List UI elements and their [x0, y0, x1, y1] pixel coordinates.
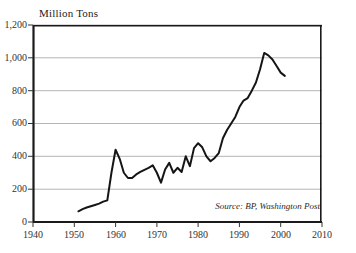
x-axis-label-1980: 1980 [178, 229, 218, 240]
x-axis-label-1960: 1960 [96, 229, 136, 240]
y-axis-label-800: 800 [0, 85, 27, 96]
y-axis-label-400: 400 [0, 150, 27, 161]
y-axis-label-0: 0 [0, 216, 27, 227]
x-axis-label-1950: 1950 [54, 229, 94, 240]
x-axis-label-1990: 1990 [219, 229, 259, 240]
x-axis-label-2010: 2010 [302, 229, 342, 240]
chart-container: Million Tons [0, 0, 356, 253]
source-attribution: Source: BP, Washington Post [215, 201, 320, 211]
y-axis-ticks [28, 25, 33, 222]
chart-plot-area [0, 0, 356, 253]
y-axis-label-1000: 1,000 [0, 52, 27, 63]
x-axis-label-1970: 1970 [137, 229, 177, 240]
gridlines [33, 25, 322, 189]
x-axis-label-1940: 1940 [13, 229, 53, 240]
y-axis-label-200: 200 [0, 183, 27, 194]
data-series-line [78, 53, 284, 211]
x-axis-label-2000: 2000 [261, 229, 301, 240]
y-axis-label-600: 600 [0, 117, 27, 128]
y-axis-label-1200: 1,200 [0, 19, 27, 30]
